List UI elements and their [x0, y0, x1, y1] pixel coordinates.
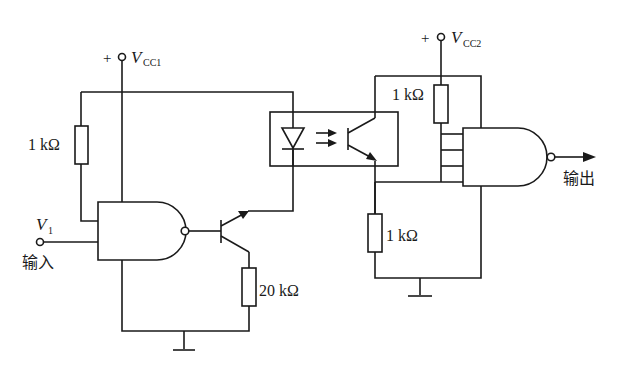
vcc2-subscript: CC2	[463, 38, 481, 49]
resistor-output-pulldown-label: 1 kΩ	[386, 227, 418, 244]
light-arrow-icon	[328, 139, 337, 147]
resistor-output-pulldown	[368, 214, 382, 252]
vcc2-supply: + V CC2	[421, 28, 481, 49]
vcc2-plus-sign: +	[421, 30, 429, 46]
output-caption: 输出	[563, 169, 595, 188]
vcc1-terminal-icon	[119, 54, 126, 61]
resistor-input-pullup	[75, 126, 88, 164]
resistor-emitter-label: 20 kΩ	[259, 282, 299, 299]
input-subscript: 1	[48, 225, 53, 236]
nand-gate-input-bubble	[181, 227, 189, 235]
input-caption: 输入	[22, 253, 54, 272]
npn-transistor	[221, 211, 249, 252]
vcc1-supply: + V CC1	[103, 48, 161, 68]
resistor-output-pullup	[434, 85, 448, 123]
nand-gate-output	[463, 128, 547, 186]
vcc2-terminal-icon	[438, 34, 445, 41]
input-terminal: V 1 输入	[22, 215, 54, 272]
resistor-output-pullup-label: 1 kΩ	[392, 86, 424, 103]
resistor-input-pullup-label: 1 kΩ	[28, 136, 60, 153]
led-icon	[282, 128, 304, 148]
optocoupler	[270, 112, 398, 166]
output-arrow-icon	[583, 152, 596, 162]
vcc1-plus-sign: +	[103, 50, 111, 66]
nand-gate-input	[98, 202, 186, 260]
resistor-emitter	[242, 268, 256, 306]
circuit-diagram: + V CC1 1 kΩ V 1 输入 20 kΩ	[0, 0, 622, 370]
nand-gate-output-bubble	[547, 153, 555, 161]
light-arrow-icon	[328, 129, 337, 137]
emitter-arrow-icon	[238, 211, 249, 219]
input-terminal-icon	[37, 239, 44, 246]
vcc1-subscript: CC1	[143, 57, 161, 68]
